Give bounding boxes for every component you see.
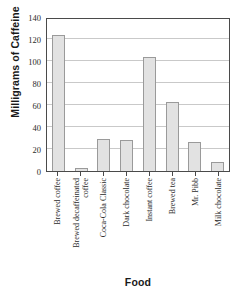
bar-slot [138,19,161,171]
x-axis-category-label: Dark chocolate [122,178,131,268]
x-axis-category-label: Mr. Pibb [191,178,200,268]
bar [97,139,110,171]
x-axis-category-labels: Brewed coffeeBrewed decaffeinated coffee… [46,178,230,270]
bar-slot [161,19,184,171]
x-axis-tick [126,172,127,176]
x-tick-slot [46,172,69,176]
x-axis-tick [149,172,150,176]
x-tick-slot [138,172,161,176]
x-axis-category-label: Milk chocolate [214,178,223,268]
y-axis-tick-label: 80 [33,79,42,89]
category-label-slot: Dark chocolate [115,178,138,270]
category-label-slot: Brewed decaffeinated coffee [69,178,92,270]
category-label-slot: Milk chocolate [207,178,230,270]
x-axis-tick-marks [46,172,230,176]
x-axis-tick [80,172,81,176]
x-axis-tick [195,172,196,176]
bar [75,168,88,171]
y-axis-tick-label: 140 [28,13,41,23]
y-axis-tick-label: 0 [37,167,41,177]
bar-slot [206,19,229,171]
bar-slot [93,19,116,171]
bar-slot [70,19,93,171]
bars-group [47,19,229,171]
y-axis-tick-label: 60 [33,101,42,111]
y-axis-tick-label: 40 [33,123,42,133]
x-tick-slot [69,172,92,176]
bar [52,35,65,171]
y-axis-tick-labels: 020406080100120140 [22,12,44,172]
category-label-slot: Brewed tea [161,178,184,270]
bar-slot [47,19,70,171]
x-tick-slot [207,172,230,176]
x-tick-slot [92,172,115,176]
x-axis-tick [172,172,173,176]
y-axis-title: Milligrams of Caffeine [8,0,22,132]
x-axis-category-label: Brewed coffee [53,178,62,268]
y-axis-tick-label: 100 [28,57,41,67]
category-label-slot: Coca-Cola Classic [92,178,115,270]
bar [166,102,179,171]
category-label-slot: Brewed coffee [46,178,69,270]
category-label-slot: Instant coffee [138,178,161,270]
x-axis-title: Food [46,276,230,288]
category-label-slot: Mr. Pibb [184,178,207,270]
x-axis-tick [57,172,58,176]
bar-slot [184,19,207,171]
x-tick-slot [184,172,207,176]
x-axis-tick [218,172,219,176]
x-tick-slot [115,172,138,176]
x-axis-category-label: Brewed tea [168,178,177,268]
x-axis-tick [103,172,104,176]
bar [211,162,224,171]
bar [143,57,156,171]
bar-slot [115,19,138,171]
bar [188,142,201,171]
x-axis-category-label: Brewed decaffeinated coffee [72,178,89,266]
bar [120,140,133,171]
x-tick-slot [161,172,184,176]
y-axis-tick-label: 120 [28,35,41,45]
plot-area [46,18,230,172]
x-axis-category-label: Coca-Cola Classic [99,178,108,268]
x-axis-category-label: Instant coffee [145,178,154,268]
y-axis-tick-label: 20 [33,145,42,155]
caffeine-bar-chart: Milligrams of Caffeine 02040608010012014… [0,0,238,301]
